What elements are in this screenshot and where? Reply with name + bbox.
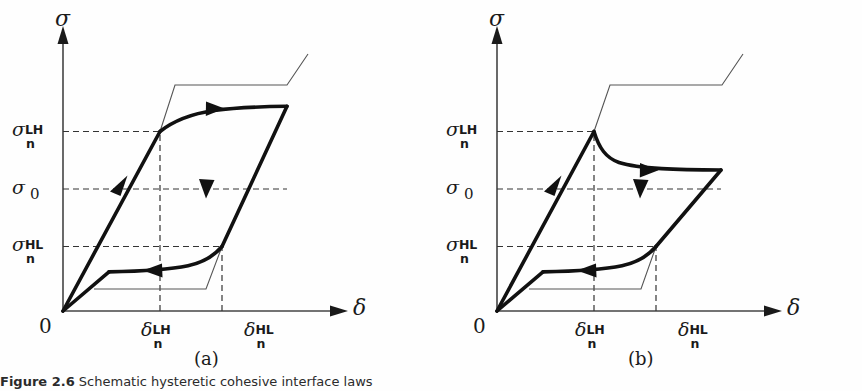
sigma-HL-sub: n xyxy=(26,253,35,266)
delta-LH-sub: n xyxy=(587,338,596,351)
x-axis-label-a: δ xyxy=(353,297,366,319)
figure-caption: Figure 2.6 Schematic hysteretic cohesive… xyxy=(0,374,862,391)
y-tick-sigma-LH-a: σLHn xyxy=(12,120,25,139)
figure-caption-text: Schematic hysteretic cohesive interface … xyxy=(79,374,373,389)
figure-root: σ δ σLHn σ0 σHLn δLHn δHLn 0 (a) xyxy=(0,0,862,391)
delta-LH-sup: LH xyxy=(586,324,604,337)
panel-a-plot xyxy=(0,0,431,391)
hysteresis-curve-a xyxy=(63,106,287,311)
delta-HL-sub: n xyxy=(256,338,265,351)
sigma-glyph: σ xyxy=(12,176,25,198)
sigma-HL-sub: n xyxy=(460,253,469,266)
x-tick-delta-LH-a: δLHn xyxy=(141,320,152,339)
arrow-down-a xyxy=(199,179,215,199)
y-tick-sigma-0-a: σ0 xyxy=(12,178,40,202)
origin-label-b: 0 xyxy=(473,316,486,336)
delta-glyph: δ xyxy=(244,318,255,340)
sigma-glyph: σ xyxy=(446,176,459,198)
sigma-LH-sub: n xyxy=(26,138,35,151)
delta-HL-sub: n xyxy=(690,338,699,351)
sigma-0-sub: 0 xyxy=(464,185,474,203)
axes-b xyxy=(492,26,783,317)
delta-glyph: δ xyxy=(141,318,152,340)
sigma-glyph: σ xyxy=(446,233,459,255)
sigma-LH-sup: LH xyxy=(25,124,43,137)
delta-HL-sup: HL xyxy=(255,324,273,337)
panel-a: σ δ σLHn σ0 σHLn δLHn δHLn 0 (a) xyxy=(0,0,431,391)
y-axis-label-a: σ xyxy=(55,8,70,30)
bilinear-envelope-a xyxy=(94,54,308,289)
y-tick-sigma-HL-a: σHLn xyxy=(12,235,25,254)
x-axis-label-b: δ xyxy=(787,297,800,319)
panel-caption-b: (b) xyxy=(628,350,654,368)
panel-caption-a: (a) xyxy=(194,350,219,368)
delta-glyph: δ xyxy=(575,318,586,340)
x-tick-delta-HL-a: δHLn xyxy=(244,320,255,339)
arrow-right-b xyxy=(640,163,659,178)
x-tick-delta-HL-b: δHLn xyxy=(678,320,689,339)
sigma-glyph: σ xyxy=(12,118,25,140)
arrow-right-a xyxy=(206,102,225,117)
sigma-LH-sub: n xyxy=(460,138,469,151)
arrow-left-a xyxy=(143,264,163,278)
sigma-glyph: σ xyxy=(12,233,25,255)
y-axis-label-b: σ xyxy=(489,8,504,30)
figure-number: Figure 2.6 xyxy=(0,374,75,389)
arrow-left-b xyxy=(577,264,597,278)
hysteresis-curve-b xyxy=(497,132,721,312)
sigma-glyph: σ xyxy=(446,118,459,140)
sigma-LH-sup: LH xyxy=(459,124,477,137)
delta-LH-sup: LH xyxy=(152,324,170,337)
y-tick-sigma-0-b: σ0 xyxy=(446,178,474,202)
y-tick-sigma-HL-b: σHLn xyxy=(446,235,459,254)
delta-HL-sup: HL xyxy=(689,324,707,337)
sigma-HL-sup: HL xyxy=(25,239,43,252)
origin-label-a: 0 xyxy=(39,316,52,336)
sigma-HL-sup: HL xyxy=(459,239,477,252)
panel-b-plot xyxy=(431,0,862,391)
delta-LH-sub: n xyxy=(153,338,162,351)
axes-a xyxy=(58,26,349,317)
x-tick-delta-LH-b: δLHn xyxy=(575,320,586,339)
panel-b: σ δ σLHn σ0 σHLn δLHn δHLn 0 (b) xyxy=(431,0,862,391)
delta-glyph: δ xyxy=(678,318,689,340)
sigma-0-sub: 0 xyxy=(30,185,40,203)
arrow-down-b xyxy=(633,179,649,199)
y-tick-sigma-LH-b: σLHn xyxy=(446,120,459,139)
